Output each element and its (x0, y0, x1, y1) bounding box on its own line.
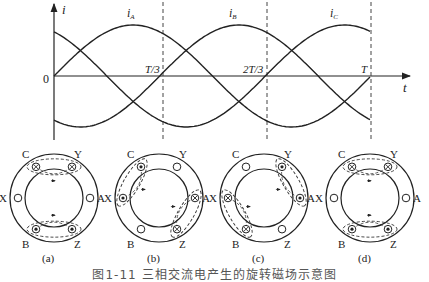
rotor-circle (235, 169, 293, 227)
empty-slot-icon (137, 225, 145, 233)
empty-slot-icon (402, 194, 410, 202)
panel-caption-b: (b) (147, 252, 160, 265)
flux-path (352, 167, 388, 174)
slot-label-x: X (104, 192, 112, 204)
slot-label-z: Z (74, 238, 81, 250)
origin-label: 0 (43, 72, 49, 86)
stator-panel-a: CYAZBX(a) (0, 148, 105, 265)
slot-label-c: C (338, 148, 345, 160)
flux-path (123, 167, 141, 198)
slot-label-y: Y (390, 148, 398, 160)
slot-label-b: B (127, 238, 134, 250)
curve-label-ib: iB (229, 6, 237, 21)
curve-label-ia: iA (127, 6, 135, 21)
slot-label-b: B (338, 238, 345, 250)
empty-slot-icon (242, 163, 250, 171)
slot-label-c: C (22, 148, 29, 160)
slot-label-b: B (232, 238, 239, 250)
rotor-circle (341, 169, 399, 227)
slot-label-x: X (209, 192, 217, 204)
stator-panel-d: CYAZBX(d) (315, 148, 421, 265)
rotor-circle (25, 169, 83, 227)
slot-label-z: Z (179, 238, 186, 250)
stator-panels: CYAZBX(a)CYAZBX(b)CYAZBX(c)CYAZBX(d) (0, 148, 421, 265)
panel-caption-c: (c) (252, 252, 265, 265)
x-axis-label: t (403, 80, 407, 95)
flux-path (352, 222, 388, 229)
tick-label-t3: T/3 (145, 63, 160, 75)
empty-slot-icon (278, 225, 286, 233)
stator-outer-ring (10, 154, 98, 242)
panel-caption-a: (a) (42, 252, 55, 265)
stator-outer-ring (115, 154, 203, 242)
stator-outer-ring (326, 154, 414, 242)
slot-label-y: Y (74, 148, 82, 160)
y-axis-label: i (62, 2, 66, 17)
flux-path (177, 198, 195, 229)
flux-path (282, 167, 300, 198)
empty-slot-icon (86, 194, 94, 202)
empty-slot-icon (173, 163, 181, 171)
slot-label-a: A (307, 192, 315, 204)
slot-label-y: Y (284, 148, 292, 160)
stator-panel-b: CYAZBX(b) (104, 148, 210, 265)
flux-path (36, 222, 72, 229)
panel-caption-d: (d) (358, 252, 371, 265)
slot-label-b: B (22, 238, 29, 250)
curve-label-ic: iC (330, 6, 338, 21)
slot-label-c: C (232, 148, 239, 160)
slot-label-z: Z (284, 238, 291, 250)
empty-slot-icon (330, 194, 338, 202)
stator-panel-c: CYAZBX(c) (209, 148, 315, 265)
empty-slot-icon (14, 194, 22, 202)
figure-caption: 图1-11 三相交流电产生的旋转磁场示意图 (0, 265, 429, 282)
tick-label-2t3: 2T/3 (243, 63, 264, 75)
slot-label-a: A (413, 192, 421, 204)
flux-path (228, 198, 246, 229)
flux-path (36, 167, 72, 174)
stator-outer-ring (220, 154, 308, 242)
slot-label-c: C (127, 148, 134, 160)
slot-label-x: X (0, 192, 7, 204)
waveform-plot: i t 0 T/3 2T/3 T iA iB iC (43, 2, 410, 140)
slot-label-y: Y (179, 148, 187, 160)
tick-label-t: T (361, 63, 368, 75)
slot-label-x: X (315, 192, 323, 204)
slot-label-z: Z (390, 238, 397, 250)
rotor-circle (130, 169, 188, 227)
